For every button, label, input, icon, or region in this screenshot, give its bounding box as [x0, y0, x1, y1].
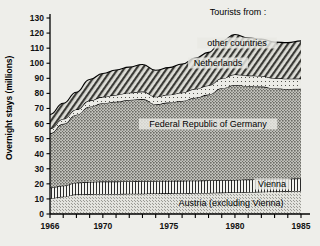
y-axis-title: Overnight stays (millions) — [4, 55, 14, 160]
label-austria: Austria (excluding Vienna) — [179, 198, 284, 208]
y-tick-label: 10 — [35, 194, 45, 204]
y-tick-label: 60 — [35, 119, 45, 129]
chart-container: 0102030405060708090100110120130 19661970… — [0, 0, 320, 246]
label-vienna: Vienna — [258, 179, 286, 189]
y-tick-label: 0 — [39, 209, 44, 219]
y-tick-label: 100 — [30, 58, 44, 68]
y-tick-label: 70 — [35, 103, 45, 113]
label-other-countries: other countries — [207, 38, 267, 48]
label-netherlands: Netherlands — [194, 58, 243, 68]
x-tick-label: 1966 — [41, 221, 60, 231]
x-tick-label: 1980 — [225, 221, 244, 231]
y-tick-label: 80 — [35, 88, 45, 98]
x-tick-label: 1985 — [292, 221, 311, 231]
y-tick-label: 40 — [35, 149, 45, 159]
x-tick-label: 1970 — [93, 221, 112, 231]
y-tick-label: 120 — [30, 28, 44, 38]
y-tick-label: 130 — [30, 13, 44, 23]
y-tick-label: 90 — [35, 73, 45, 83]
legend-title: Tourists from : — [210, 7, 267, 17]
stacked-area-chart: 0102030405060708090100110120130 19661970… — [0, 0, 320, 246]
label-germany: Federal Republic of Germany — [149, 119, 267, 129]
y-tick-label: 110 — [30, 43, 44, 53]
x-tick-label: 1975 — [159, 221, 178, 231]
y-tick-label: 50 — [35, 134, 45, 144]
y-tick-label: 30 — [35, 164, 45, 174]
y-tick-label: 20 — [35, 179, 45, 189]
